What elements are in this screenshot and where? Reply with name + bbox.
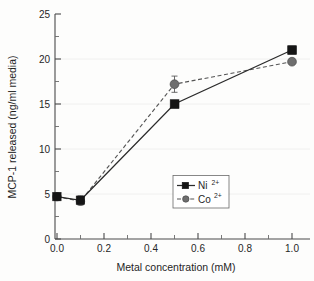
legend-label-ni-superscript: 2+ [212, 179, 220, 186]
y-axis-title: MCP-1 released (ng/ml media) [6, 56, 18, 199]
data-point-co2plus [288, 57, 297, 66]
x-axis-title: Metal concentration (mM) [116, 261, 235, 273]
data-point-ni2plus [76, 196, 84, 204]
data-point-ni2plus [170, 100, 179, 109]
x-tick-label: 0.6 [191, 243, 205, 254]
gridlines [55, 59, 310, 194]
y-axis [55, 14, 61, 239]
y-tick-labels: 25 20 15 10 5 0 [39, 9, 51, 245]
legend-label-co: Co [198, 194, 211, 205]
y-tick-label: 25 [39, 9, 51, 20]
y-tick-label: 5 [44, 189, 50, 200]
x-tick-label: 0.2 [97, 243, 111, 254]
data-point-ni2plus [53, 192, 61, 200]
legend: Ni 2+ Co 2+ [173, 176, 229, 209]
x-tick-label: 0.0 [50, 243, 64, 254]
x-tick-label: 1.0 [285, 243, 299, 254]
legend-marker-square [182, 182, 188, 188]
data-point-ni2plus [288, 46, 297, 55]
y-tick-label: 10 [39, 144, 51, 155]
data-point-co2plus [170, 80, 179, 89]
mcp1-metal-concentration-chart: 25 20 15 10 5 0 0.0 0.2 [0, 0, 314, 281]
x-axis [55, 233, 310, 239]
legend-marker-circle [183, 196, 189, 202]
x-tick-label: 0.8 [238, 243, 252, 254]
legend-label-ni: Ni [198, 180, 207, 191]
x-tick-label: 0.4 [144, 243, 158, 254]
y-tick-label: 15 [39, 99, 51, 110]
legend-label-co-superscript: 2+ [214, 192, 222, 199]
y-tick-label: 20 [39, 54, 51, 65]
figure-panel: 25 20 15 10 5 0 0.0 0.2 [0, 0, 314, 281]
x-tick-labels: 0.0 0.2 0.4 0.6 0.8 1.0 [50, 243, 299, 254]
